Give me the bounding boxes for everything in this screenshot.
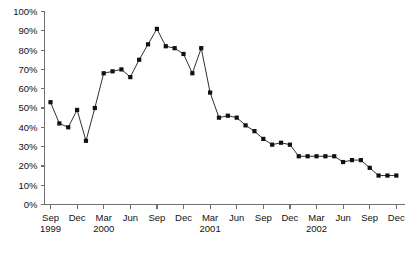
y-axis-tick-label: 0% <box>24 199 38 210</box>
data-point-marker <box>128 75 132 79</box>
data-point-markers <box>48 27 398 178</box>
data-point-marker <box>48 100 52 104</box>
line-chart: 0%10%20%30%40%50%60%70%80%90%100% Sep199… <box>0 0 411 254</box>
data-point-marker <box>261 137 265 141</box>
data-point-marker <box>199 46 203 50</box>
y-axis-tick-label: 80% <box>18 45 38 56</box>
data-point-marker <box>190 71 194 75</box>
x-axis-tick-label-month: Mar <box>202 212 218 223</box>
data-point-marker <box>270 143 274 147</box>
data-point-marker <box>110 69 114 73</box>
y-axis-tick-label: 60% <box>18 83 38 94</box>
x-axis-tick-label-year: 2002 <box>306 223 327 234</box>
data-point-marker <box>394 173 398 177</box>
y-axis-tick-label: 70% <box>18 64 38 75</box>
data-point-marker <box>376 173 380 177</box>
data-point-marker <box>288 143 292 147</box>
x-axis-tick-label-month: Jun <box>229 212 244 223</box>
y-axis-tick-label: 30% <box>18 141 38 152</box>
data-point-marker <box>181 52 185 56</box>
x-axis-tick-label-month: Jun <box>123 212 138 223</box>
data-point-marker <box>66 125 70 129</box>
x-axis-tick-label-month: Sep <box>148 212 165 223</box>
data-point-marker <box>84 139 88 143</box>
data-point-marker <box>243 123 247 127</box>
x-axis-tick-label-month: Sep <box>255 212 272 223</box>
data-point-marker <box>119 67 123 71</box>
data-point-marker <box>368 166 372 170</box>
data-point-marker <box>385 173 389 177</box>
data-point-marker <box>93 106 97 110</box>
y-axis-tick-label: 90% <box>18 25 38 36</box>
data-point-marker <box>350 158 354 162</box>
x-axis-tick-label-year: 2001 <box>200 223 221 234</box>
x-axis-tick-label-month: Sep <box>42 212 59 223</box>
data-point-marker <box>75 108 79 112</box>
data-point-marker <box>164 44 168 48</box>
data-point-marker <box>173 46 177 50</box>
x-axis-tick-label-month: Mar <box>96 212 112 223</box>
y-axis-tick-labels: 0%10%20%30%40%50%60%70%80%90%100% <box>13 6 38 210</box>
data-point-marker <box>332 154 336 158</box>
chart-container: 0%10%20%30%40%50%60%70%80%90%100% Sep199… <box>0 0 411 254</box>
data-point-marker <box>146 42 150 46</box>
data-series-line <box>51 29 397 176</box>
data-point-marker <box>252 129 256 133</box>
x-axis-tick-label-month: Dec <box>388 212 405 223</box>
y-axis-tick-label: 20% <box>18 160 38 171</box>
y-axis-tick-label: 10% <box>18 180 38 191</box>
x-axis-tick-label-year: 1999 <box>40 223 61 234</box>
data-point-marker <box>217 116 221 120</box>
y-axis-tick-label: 50% <box>18 102 38 113</box>
x-axis-tick-label-month: Jun <box>335 212 350 223</box>
data-point-marker <box>297 154 301 158</box>
data-point-marker <box>137 58 141 62</box>
data-point-marker <box>323 154 327 158</box>
data-point-marker <box>314 154 318 158</box>
data-point-marker <box>306 154 310 158</box>
data-point-marker <box>155 27 159 31</box>
data-point-marker <box>279 141 283 145</box>
data-point-marker <box>102 71 106 75</box>
x-axis-tick-label-year: 2000 <box>93 223 114 234</box>
x-axis-tick-label-month: Dec <box>69 212 86 223</box>
x-axis-tick-label-month: Sep <box>361 212 378 223</box>
data-point-marker <box>208 90 212 94</box>
y-axis-tick-label: 100% <box>13 6 38 17</box>
x-axis-tick-labels: Sep1999DecMar2000JunSepDecMar2001JunSepD… <box>40 212 405 234</box>
data-point-marker <box>57 121 61 125</box>
x-axis-tick-label-month: Dec <box>281 212 298 223</box>
x-axis-tick-label-month: Mar <box>308 212 324 223</box>
y-axis-tick-label: 40% <box>18 122 38 133</box>
data-point-marker <box>235 116 239 120</box>
data-point-marker <box>359 158 363 162</box>
data-point-marker <box>341 160 345 164</box>
x-axis-tick-label-month: Dec <box>175 212 192 223</box>
data-point-marker <box>226 114 230 118</box>
